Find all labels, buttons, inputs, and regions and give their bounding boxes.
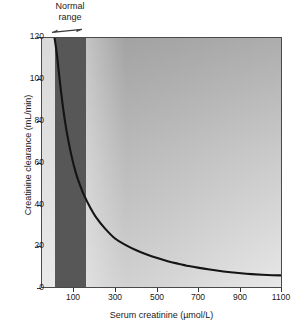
- x-axis-title: Serum creatinine (µmol/L): [41, 310, 282, 320]
- creatinine-clearance-curve: [42, 38, 282, 288]
- y-tick-label-0: 0: [39, 283, 44, 292]
- x-tick-label-700: 700: [191, 293, 205, 302]
- y-tick-label-120: 120: [30, 32, 44, 41]
- normal-range-label-line2: range: [42, 12, 98, 23]
- normal-range-label-line1: Normal: [42, 1, 98, 12]
- x-tick-label-100: 100: [66, 293, 80, 302]
- x-tick-label-1100: 1100: [272, 293, 290, 302]
- y-tick-label-20: 20: [35, 241, 44, 250]
- double-headed-arrow-icon: [50, 27, 84, 36]
- y-tick-label-40: 40: [35, 200, 44, 209]
- x-tick-label-300: 300: [108, 293, 122, 302]
- figure-creatinine-clearance-chart: 120 100 80 60 40 20 0 100 300 500 700 90…: [0, 0, 296, 333]
- x-tick-label-500: 500: [150, 293, 164, 302]
- plot-area: [41, 37, 282, 288]
- figure-caption: [4, 325, 296, 333]
- y-axis-title: Creatinine clearance (mL/min): [23, 55, 33, 255]
- x-tick-label-900: 900: [233, 293, 247, 302]
- y-tick-label-60: 60: [35, 158, 44, 167]
- normal-range-annotation: Normal range: [42, 1, 98, 22]
- y-tick-label-80: 80: [35, 116, 44, 125]
